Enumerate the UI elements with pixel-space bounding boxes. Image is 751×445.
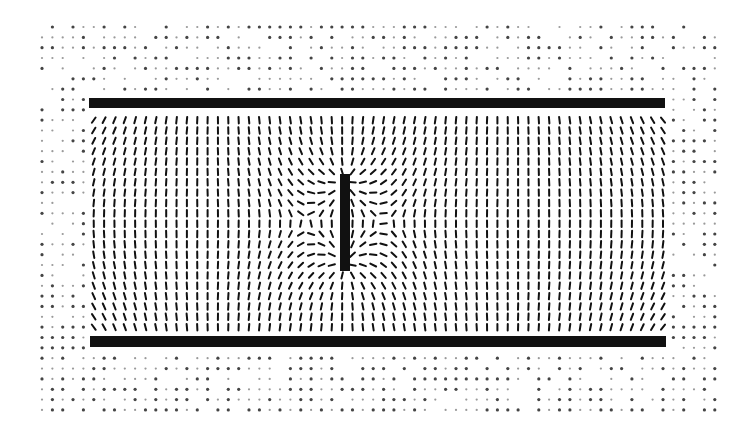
field-dot — [403, 88, 405, 90]
field-vector — [279, 138, 281, 144]
field-dot — [672, 254, 674, 256]
field-dot — [51, 346, 54, 349]
field-vector — [435, 231, 436, 237]
field-dot — [310, 367, 313, 370]
field-vector — [580, 272, 581, 278]
field-dot — [683, 388, 685, 390]
field-dot — [579, 88, 582, 91]
field-vector — [403, 273, 406, 279]
field-dot — [310, 388, 313, 391]
field-dot — [330, 398, 333, 401]
field-dot — [403, 409, 405, 411]
field-vector — [269, 200, 271, 206]
field-dot — [93, 26, 95, 28]
field-vector — [559, 138, 560, 145]
field-dot — [258, 88, 261, 91]
field-dot — [217, 78, 219, 80]
field-vector — [611, 303, 613, 309]
field-vector — [662, 159, 664, 165]
field-dot — [71, 295, 74, 298]
field-dot — [558, 408, 561, 411]
field-vector — [269, 169, 271, 175]
field-vector — [414, 148, 416, 154]
field-dot — [165, 357, 167, 359]
field-dot — [248, 388, 250, 390]
field-dot — [103, 388, 106, 391]
field-dot — [610, 378, 612, 380]
field-vector — [641, 283, 643, 289]
field-vector — [600, 324, 601, 330]
field-dot — [196, 377, 199, 380]
field-dot — [299, 408, 302, 411]
field-vector — [435, 272, 437, 278]
field-vector — [641, 303, 643, 309]
field-dot — [61, 336, 64, 339]
field-vector — [360, 192, 366, 194]
field-vector — [652, 159, 654, 165]
field-vector — [435, 293, 436, 299]
field-dot — [134, 378, 136, 380]
field-dot — [703, 377, 706, 380]
field-vector — [249, 241, 250, 248]
field-dot — [41, 181, 43, 183]
field-vector — [435, 241, 436, 248]
field-vector — [330, 170, 335, 175]
field-dot — [672, 150, 674, 152]
field-vector — [549, 138, 550, 145]
field-vector — [259, 169, 261, 175]
field-vector — [289, 159, 292, 165]
field-vector — [641, 138, 643, 144]
field-vector — [259, 303, 260, 310]
field-dot — [682, 398, 685, 401]
field-dot — [362, 36, 364, 38]
field-dot — [424, 409, 426, 411]
field-vector — [300, 127, 301, 133]
field-vector — [414, 159, 416, 165]
field-vector — [393, 138, 395, 144]
field-dot — [444, 46, 447, 49]
field-dot — [672, 191, 674, 193]
field-dot — [351, 36, 353, 38]
field-vector — [308, 181, 314, 184]
field-vector — [611, 200, 612, 207]
field-dot — [641, 88, 644, 91]
field-vector — [329, 182, 335, 183]
field-vector — [404, 127, 406, 133]
field-vector — [661, 304, 664, 310]
field-dot — [454, 46, 457, 49]
field-vector — [425, 231, 426, 237]
field-dot — [434, 357, 437, 360]
field-vector — [392, 211, 396, 216]
field-vector — [124, 158, 125, 164]
field-dot — [217, 47, 219, 49]
field-dot — [227, 67, 229, 69]
field-vector — [559, 158, 560, 165]
field-vector — [135, 272, 136, 278]
field-vector — [445, 117, 446, 124]
field-vector — [320, 159, 324, 165]
field-dot — [341, 408, 344, 411]
field-vector — [632, 241, 633, 248]
field-dot — [537, 408, 540, 411]
field-dot — [103, 378, 105, 380]
field-dot — [341, 25, 344, 28]
field-vector — [135, 189, 136, 195]
field-dot — [496, 57, 498, 59]
field-vector — [393, 324, 394, 330]
field-dot — [361, 25, 364, 28]
field-dot — [579, 378, 581, 380]
field-dot — [444, 409, 446, 411]
field-dot — [299, 357, 302, 360]
field-dot — [548, 409, 550, 411]
field-dot — [661, 398, 664, 401]
field-vector — [631, 148, 633, 154]
field-vector — [601, 179, 602, 186]
field-dot — [103, 78, 105, 80]
field-vector — [590, 272, 591, 278]
field-vector — [372, 148, 375, 154]
field-vector — [380, 202, 386, 204]
field-dot — [393, 36, 395, 38]
field-vector — [662, 169, 664, 175]
field-dot — [465, 357, 468, 360]
field-dot — [382, 388, 385, 391]
